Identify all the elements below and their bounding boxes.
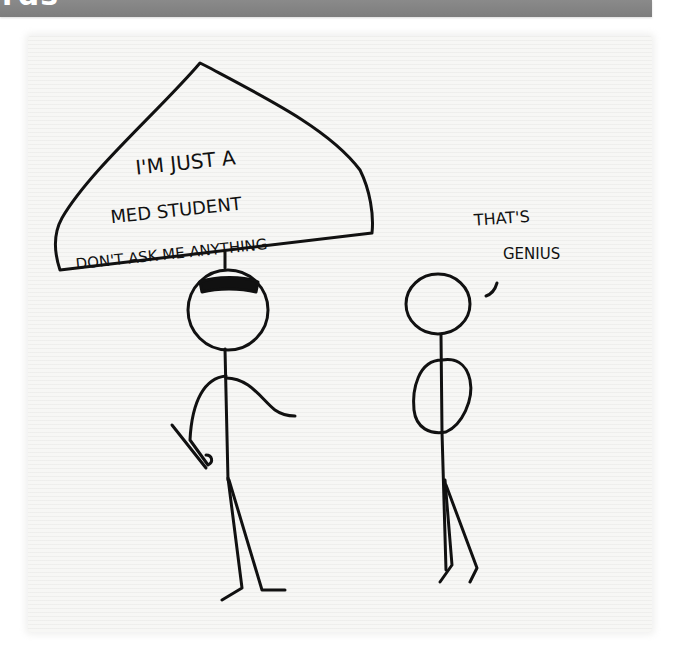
figure1-right-leg xyxy=(229,480,285,590)
speech-tick xyxy=(486,283,497,296)
figure1-left-leg xyxy=(222,478,242,600)
figure1-right-arm xyxy=(226,378,295,416)
speech-text-line2: GENIUS xyxy=(503,245,560,263)
figure1-left-arm xyxy=(190,376,226,465)
figure2-head xyxy=(406,274,470,334)
figure2-body xyxy=(441,335,446,570)
figure1-hat-band xyxy=(200,278,258,293)
sign-text-line1: I'M JUST A xyxy=(134,145,237,179)
figure1-body xyxy=(225,349,228,480)
speech-text-line1: THAT'S xyxy=(472,207,530,230)
comic-drawing: I'M JUST A MED STUDENT DON'T ASK ME ANYT… xyxy=(0,0,689,661)
figure1-cane xyxy=(172,425,206,468)
sign-text-line3: DON'T ASK ME ANYTHING xyxy=(75,235,268,273)
sign-text-line2: MED STUDENT xyxy=(109,193,243,228)
